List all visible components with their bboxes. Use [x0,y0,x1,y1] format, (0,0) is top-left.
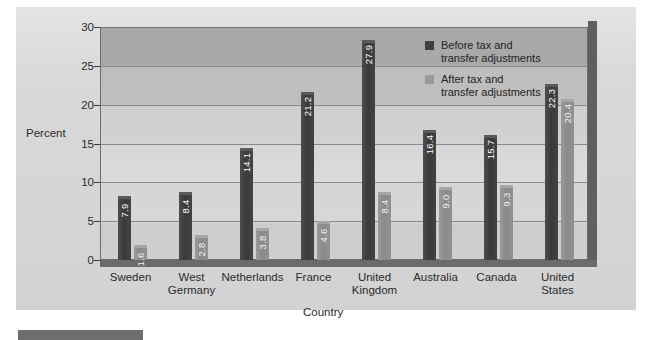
bar-value-label: 9.0 [440,195,451,209]
gridline [100,182,588,183]
bar-before-tax: 27.9 [362,43,375,260]
y-axis-tick-labels: 051015202530 [58,27,94,260]
y-axis-tick-label: 20 [81,99,94,111]
bar-face [545,87,558,260]
y-axis-tick [94,66,100,67]
y-axis-tick [94,182,100,183]
bar-after-tax: 8.4 [378,195,391,260]
y-axis-tick [94,144,100,145]
x-axis-title: Country [303,306,343,318]
bar-after-tax: 9.0 [439,190,452,260]
bar-value-label: 8.4 [379,199,390,213]
chart-figure: Percent 051015202530 7.91.68.42.814.13.8… [0,0,652,340]
legend-label: Before tax and transfer adjustments [441,39,541,64]
bar-after-tax: 4.6 [317,224,330,260]
bar-group: 7.91.6 [118,27,148,260]
bar-value-label: 15.7 [485,140,496,159]
bar-group: 14.13.8 [240,27,270,260]
gridline [100,221,588,222]
x-axis-category-label: United States [510,271,606,296]
bar-before-tax: 8.4 [179,195,192,260]
bar-value-label: 2.8 [196,243,207,257]
legend-item: Before tax and transfer adjustments [425,39,585,64]
bar-value-label: 16.4 [424,134,435,153]
bar-after-tax: 3.8 [256,231,269,261]
bar-value-label: 27.9 [363,45,374,64]
bar-face [561,102,574,260]
bar-face [301,95,314,260]
bar-after-tax: 9.3 [500,188,513,260]
legend-item: After tax and transfer adjustments [425,73,585,98]
legend-label: After tax and transfer adjustments [441,73,541,98]
y-axis-tick [94,260,100,261]
legend-swatch-icon [425,41,434,50]
bar-value-label: 9.3 [501,192,512,206]
bar-value-label: 7.9 [119,203,130,217]
y-axis-tick-label: 15 [81,138,94,150]
gridline [100,27,588,28]
bar-group: 8.42.8 [179,27,209,260]
bar-after-tax: 2.8 [195,238,208,260]
legend-swatch-icon [425,75,434,84]
plot-area: 7.91.68.42.814.13.821.24.627.98.416.49.0… [100,27,588,260]
bar-before-tax: 7.9 [118,199,131,260]
bar-value-label: 1.6 [135,252,146,266]
y-axis-tick [94,27,100,28]
bar-group: 27.98.4 [362,27,392,260]
y-axis-tick-label: 10 [81,176,94,188]
bar-value-label: 14.1 [241,152,252,171]
plot-right-wall [588,21,597,266]
scan-artifact-bar [18,330,143,340]
chart-legend: Before tax and transfer adjustmentsAfter… [425,39,585,107]
bar-value-label: 4.6 [318,229,329,243]
bar-group: 21.24.6 [301,27,331,260]
y-axis-tick [94,105,100,106]
bar-after-tax: 1.6 [134,248,147,260]
y-axis-tick-label: 30 [81,21,94,33]
y-axis-tick [94,221,100,222]
bar-after-tax: 20.4 [561,102,574,260]
bar-value-label: 21.2 [302,97,313,116]
gridline [100,144,588,145]
bar-before-tax: 15.7 [484,138,497,260]
bar-before-tax: 21.2 [301,95,314,260]
plot-floor [100,260,597,267]
y-axis-tick-label: 25 [81,60,94,72]
bar-value-label: 8.4 [180,199,191,213]
bar-before-tax: 16.4 [423,133,436,260]
bar-before-tax: 22.3 [545,87,558,260]
bar-value-label: 3.8 [257,235,268,249]
bar-face [362,43,375,260]
bar-before-tax: 14.1 [240,151,253,261]
